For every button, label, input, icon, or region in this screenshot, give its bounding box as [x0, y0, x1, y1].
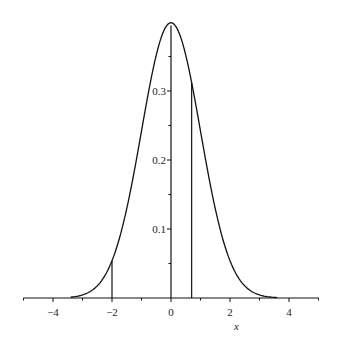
y-tick-label: 0.1: [152, 223, 166, 235]
y-tick-label: 0.2: [152, 154, 166, 166]
tick-labels: −4−20240.10.20.3: [47, 85, 292, 318]
x-axis-label: x: [233, 320, 239, 332]
density-curve: [71, 23, 278, 298]
y-tick-label: 0.3: [152, 85, 166, 97]
vertical-markers: [112, 83, 192, 298]
x-tick-label: 0: [168, 306, 174, 318]
x-tick-label: −4: [47, 306, 59, 318]
x-tick-label: 2: [227, 306, 233, 318]
normal-distribution-chart: −4−20240.10.20.3 x: [0, 0, 339, 345]
axes: [24, 25, 319, 298]
x-tick-label: −2: [106, 306, 118, 318]
x-tick-label: 4: [286, 306, 292, 318]
